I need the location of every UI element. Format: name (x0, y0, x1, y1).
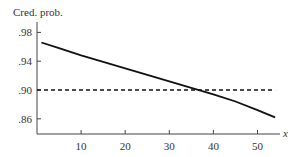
x-tick-label: 10 (76, 140, 88, 152)
x-tick-label: 30 (164, 140, 176, 152)
y-tick-label: .98 (18, 26, 32, 38)
y-tick-label: .90 (18, 84, 32, 96)
x-tick-label: 40 (208, 140, 220, 152)
y-tick-label: .94 (18, 55, 32, 67)
y-tick-label: .86 (18, 113, 32, 125)
chart: Cred. prob. x .98.94.90.86 1020304050 (0, 0, 297, 157)
x-tick-label: 20 (120, 140, 132, 152)
x-tick-label: 50 (252, 140, 264, 152)
y-axis-title: Cred. prob. (13, 6, 63, 18)
x-axis-title: x (282, 127, 288, 139)
credible-probability-curve (41, 43, 275, 118)
x-ticks: 1020304050 (76, 130, 264, 152)
y-ticks: .98.94.90.86 (18, 26, 41, 124)
